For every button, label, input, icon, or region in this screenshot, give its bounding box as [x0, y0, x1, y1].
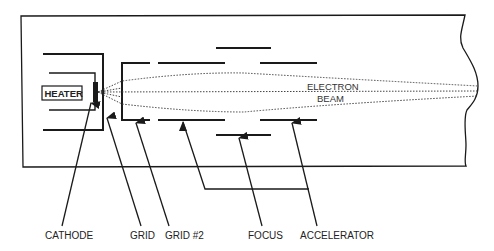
- tube-envelope: [21, 15, 478, 167]
- cathode-emitter: [93, 82, 98, 102]
- grid2-leader: [136, 123, 169, 226]
- callout-cathode: CATHODE: [45, 230, 93, 241]
- grid-leader: [107, 118, 141, 226]
- callout-grid2: GRID #2: [165, 230, 204, 241]
- beam-label-line2: BEAM: [317, 93, 344, 104]
- heater-box: HEATER: [42, 86, 83, 100]
- beam-label-line1: ELECTRON: [307, 81, 359, 92]
- electron-beam: [98, 73, 478, 112]
- focus-bracket: [183, 122, 309, 189]
- electron-gun-diagram: HEATER ELECTRON BEAM CATHODE GRID GRID #…: [0, 0, 494, 251]
- callout-accelerator: ACCELERATOR: [300, 230, 374, 241]
- cathode-leader: [62, 103, 91, 226]
- focus-leader: [239, 138, 262, 226]
- callout-grid: GRID: [130, 230, 155, 241]
- accelerator-leader: [292, 123, 317, 226]
- heater-label: HEATER: [45, 88, 83, 99]
- callout-focus: FOCUS: [248, 230, 283, 241]
